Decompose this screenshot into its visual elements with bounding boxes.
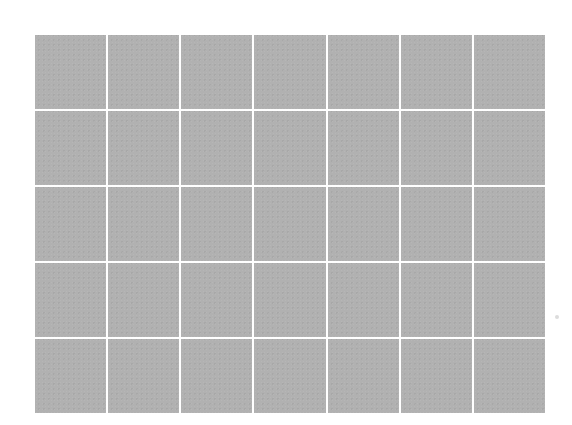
- grid-cell: [108, 263, 179, 337]
- canvas: [0, 0, 572, 425]
- grid-cell: [474, 35, 545, 109]
- grid-cell: [401, 111, 472, 185]
- grid-cell: [474, 339, 545, 413]
- grid-cell: [181, 187, 252, 261]
- grid-cell: [108, 35, 179, 109]
- grid-cell: [254, 263, 325, 337]
- grid-cell: [181, 339, 252, 413]
- grid-cell: [108, 339, 179, 413]
- grid-cell: [474, 263, 545, 337]
- gray-tile-grid: [35, 35, 545, 413]
- grid-cell: [35, 111, 106, 185]
- grid-cell: [181, 111, 252, 185]
- grid-cell: [474, 187, 545, 261]
- noise-speck: [555, 315, 559, 319]
- grid-cell: [328, 187, 399, 261]
- grid-cell: [35, 339, 106, 413]
- grid-cell: [108, 111, 179, 185]
- grid-cell: [401, 263, 472, 337]
- grid-cell: [254, 35, 325, 109]
- grid-cell: [35, 35, 106, 109]
- grid-cell: [401, 339, 472, 413]
- grid-cell: [108, 187, 179, 261]
- grid-cell: [328, 35, 399, 109]
- grid-cell: [254, 111, 325, 185]
- grid-cell: [181, 35, 252, 109]
- grid-cell: [35, 187, 106, 261]
- grid-cell: [328, 111, 399, 185]
- grid-cell: [401, 187, 472, 261]
- grid-cell: [328, 339, 399, 413]
- grid-cell: [181, 263, 252, 337]
- grid-cell: [401, 35, 472, 109]
- grid-cell: [254, 187, 325, 261]
- grid-cell: [254, 339, 325, 413]
- grid-cell: [35, 263, 106, 337]
- grid-cell: [474, 111, 545, 185]
- grid-cell: [328, 263, 399, 337]
